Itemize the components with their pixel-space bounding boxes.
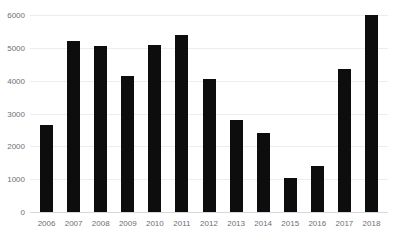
x-axis-tick-label: 2017 xyxy=(331,214,358,234)
bar-slot xyxy=(87,15,114,212)
bar xyxy=(257,133,270,212)
y-axis-tick-label: 3000 xyxy=(7,109,25,118)
bar-slot xyxy=(331,15,358,212)
bar xyxy=(365,15,378,212)
y-axis-tick-label: 6000 xyxy=(7,11,25,20)
bar xyxy=(311,166,324,212)
bar xyxy=(40,125,53,212)
bar xyxy=(148,45,161,212)
y-axis: 0100020003000400050006000 xyxy=(0,0,30,237)
x-axis-tick-label: 2011 xyxy=(168,214,195,234)
bar-slot xyxy=(141,15,168,212)
bar-slot xyxy=(304,15,331,212)
x-axis-tick-label: 2013 xyxy=(223,214,250,234)
bar xyxy=(175,35,188,212)
x-axis-tick-label: 2012 xyxy=(195,214,222,234)
y-axis-tick-label: 1000 xyxy=(7,175,25,184)
x-axis-tick-label: 2016 xyxy=(304,214,331,234)
plot-area xyxy=(30,15,388,212)
bar xyxy=(338,69,351,212)
bar-slot xyxy=(223,15,250,212)
bar-slot xyxy=(358,15,385,212)
bar-slot xyxy=(114,15,141,212)
bar xyxy=(121,76,134,212)
y-axis-tick-label: 4000 xyxy=(7,76,25,85)
bar xyxy=(284,178,297,212)
bar-chart: 0100020003000400050006000 20062007200820… xyxy=(0,0,395,237)
gridline xyxy=(30,212,388,213)
x-axis-tick-label: 2010 xyxy=(141,214,168,234)
chart-title xyxy=(0,0,395,3)
y-axis-tick-label: 2000 xyxy=(7,142,25,151)
bar-series xyxy=(30,15,388,212)
x-axis-tick-label: 2014 xyxy=(250,214,277,234)
bar xyxy=(94,46,107,212)
bar-slot xyxy=(33,15,60,212)
bar xyxy=(230,120,243,212)
bar xyxy=(67,41,80,212)
x-axis-tick-label: 2018 xyxy=(358,214,385,234)
y-axis-tick-label: 5000 xyxy=(7,43,25,52)
x-axis-tick-label: 2006 xyxy=(33,214,60,234)
bar-slot xyxy=(60,15,87,212)
bar-slot xyxy=(277,15,304,212)
bar-slot xyxy=(195,15,222,212)
x-axis-tick-label: 2009 xyxy=(114,214,141,234)
x-axis: 2006200720082009201020112012201320142015… xyxy=(30,214,388,234)
x-axis-tick-label: 2007 xyxy=(60,214,87,234)
bar-slot xyxy=(250,15,277,212)
bar-slot xyxy=(168,15,195,212)
y-axis-tick-label: 0 xyxy=(21,208,25,217)
bar xyxy=(203,79,216,212)
x-axis-tick-label: 2015 xyxy=(277,214,304,234)
x-axis-tick-label: 2008 xyxy=(87,214,114,234)
